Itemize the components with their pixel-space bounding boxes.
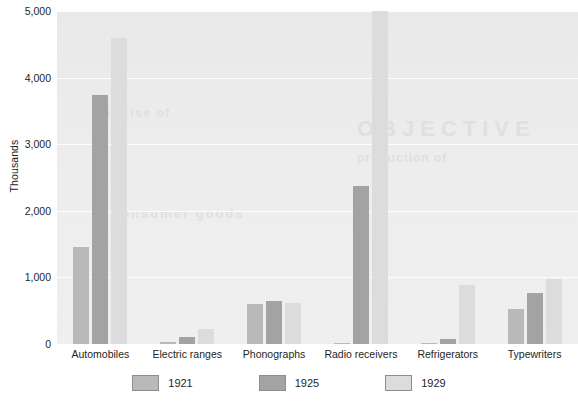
bar-chart: Thousands OBJECTIVE consumer goods the r… xyxy=(0,0,578,405)
bar-phonographs-1929 xyxy=(285,303,301,344)
x-axis-tick-label: Typewriters xyxy=(508,348,562,360)
legend-label-1925: 1925 xyxy=(295,377,319,389)
legend-item-1921[interactable]: 1921 xyxy=(132,375,192,391)
legend-swatch-1921 xyxy=(132,375,159,391)
x-axis-tick-label: Refrigerators xyxy=(417,348,478,360)
background-ghost-text-d: production of xyxy=(357,151,447,165)
bar-automobiles-1925 xyxy=(92,95,108,344)
x-axis-tick-label: Automobiles xyxy=(72,348,130,360)
gridline xyxy=(57,144,578,145)
legend-swatch-1929 xyxy=(385,375,412,391)
bar-radio-receivers-1929 xyxy=(372,11,388,344)
plot-area: OBJECTIVE consumer goods the rise of pro… xyxy=(57,11,578,344)
bar-phonographs-1925 xyxy=(266,301,282,344)
bar-electric-ranges-1925 xyxy=(179,337,195,344)
gridline xyxy=(57,211,578,212)
gridline xyxy=(57,78,578,79)
bar-phonographs-1921 xyxy=(247,304,263,344)
bar-radio-receivers-1925 xyxy=(353,186,369,344)
plot-background xyxy=(57,11,578,344)
legend-label-1929: 1929 xyxy=(421,377,445,389)
bar-typewriters-1929 xyxy=(546,279,562,344)
legend: 192119251929 xyxy=(0,375,578,391)
background-ghost-text-b: consumer goods xyxy=(112,206,245,221)
x-axis-tick-label: Radio receivers xyxy=(324,348,397,360)
bar-typewriters-1925 xyxy=(527,293,543,344)
y-axis-title: Thousands xyxy=(8,121,20,211)
x-axis-tick-label: Electric ranges xyxy=(153,348,222,360)
y-axis-tick-label: 0 xyxy=(0,338,51,350)
legend-item-1929[interactable]: 1929 xyxy=(385,375,445,391)
legend-label-1921: 1921 xyxy=(168,377,192,389)
y-axis-tick-label: 5,000 xyxy=(0,5,51,17)
bar-electric-ranges-1929 xyxy=(198,329,214,344)
y-axis-tick-label: 4,000 xyxy=(0,72,51,84)
bar-refrigerators-1925 xyxy=(440,339,456,344)
legend-swatch-1925 xyxy=(259,375,286,391)
y-axis-tick-label: 1,000 xyxy=(0,271,51,283)
bar-radio-receivers-1921 xyxy=(334,343,350,344)
bar-refrigerators-1921 xyxy=(421,343,437,344)
bar-automobiles-1929 xyxy=(111,38,127,344)
gridline xyxy=(57,11,578,12)
legend-item-1925[interactable]: 1925 xyxy=(259,375,319,391)
bar-typewriters-1921 xyxy=(508,309,524,344)
bar-refrigerators-1929 xyxy=(459,285,475,344)
bar-automobiles-1921 xyxy=(73,247,89,344)
gridline xyxy=(57,277,578,278)
x-axis-tick-label: Phonographs xyxy=(243,348,305,360)
bar-electric-ranges-1921 xyxy=(160,342,176,344)
